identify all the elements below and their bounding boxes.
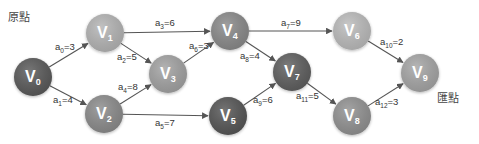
source-label: 原點 bbox=[8, 11, 30, 24]
edge-label-a2: a2=5 bbox=[117, 51, 137, 64]
node-v6: V6 bbox=[333, 12, 371, 50]
edge-label-a7: a7=9 bbox=[281, 17, 301, 30]
node-v3: V3 bbox=[149, 55, 187, 93]
edge-label-a11: a11=5 bbox=[296, 90, 319, 103]
edge-label-a4: a4=8 bbox=[118, 81, 138, 94]
edge-label-a3: a3=6 bbox=[155, 17, 175, 30]
edge-a5 bbox=[123, 114, 208, 115]
edge-label-a9: a9=6 bbox=[253, 94, 273, 107]
sink-label: 匯點 bbox=[437, 92, 459, 105]
edge-label-a5: a5=7 bbox=[155, 117, 175, 130]
edge-label-a6: a6=3 bbox=[189, 40, 209, 53]
node-v8: V8 bbox=[333, 97, 371, 135]
node-v0: V0 bbox=[14, 58, 52, 96]
node-v2: V2 bbox=[85, 95, 123, 133]
node-v7: V7 bbox=[273, 53, 311, 91]
edge-label-a1: a1=4 bbox=[53, 94, 73, 107]
edge-label-a12: a12=3 bbox=[375, 96, 398, 109]
edge-label-a8: a8=4 bbox=[240, 50, 260, 63]
node-v5: V5 bbox=[209, 97, 247, 135]
aoe-network-diagram: 原點 匯點 a0=3a1=4a2=5a3=6a4=8a5=7a6=3a7=9a8… bbox=[0, 0, 479, 144]
edge-label-a10: a10=2 bbox=[380, 36, 403, 49]
node-v4: V4 bbox=[211, 12, 249, 50]
edge-label-a0: a0=3 bbox=[55, 41, 75, 54]
node-v1: V1 bbox=[86, 14, 124, 52]
node-v9: V9 bbox=[401, 54, 439, 92]
edge-a3 bbox=[124, 31, 210, 32]
nodes: V0V1V2V3V4V5V6V7V8V9 bbox=[14, 12, 439, 135]
